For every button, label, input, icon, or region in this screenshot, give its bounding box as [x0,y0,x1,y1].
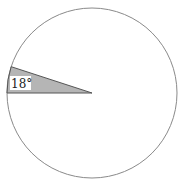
sector-angle-label: 18° [11,77,32,91]
pie-diagram: 18° [0,0,179,179]
